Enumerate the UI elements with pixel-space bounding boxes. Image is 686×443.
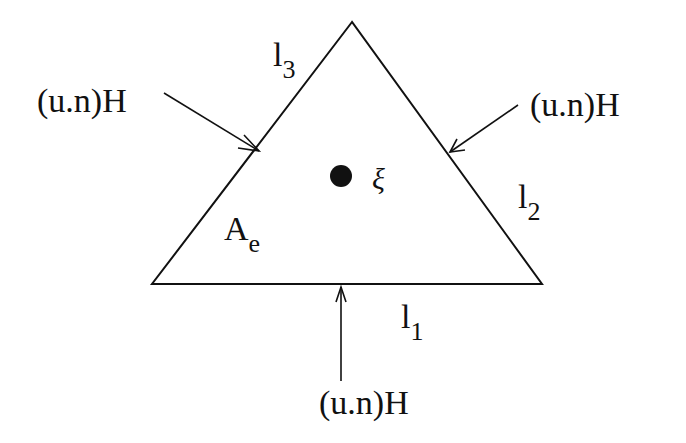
- edge-label-l1-sub: 1: [410, 317, 423, 346]
- source-point-dot: [330, 165, 352, 187]
- element-area-label: Ae: [224, 212, 260, 246]
- edge-label-l1: l1: [401, 300, 423, 334]
- triangle-element: [152, 22, 542, 284]
- flux-label-right: (u.n)H: [530, 88, 620, 122]
- edge-label-l2-sub: 2: [527, 197, 540, 226]
- source-point-label: ξ: [372, 164, 385, 194]
- flux-label-bottom: (u.n)H: [319, 386, 409, 420]
- element-area-sub: e: [249, 229, 261, 258]
- edge-label-l3: l3: [273, 38, 295, 72]
- edge-label-l2: l2: [518, 180, 540, 214]
- flux-arrow-bottom: [336, 287, 346, 381]
- flux-arrow-left: [164, 93, 259, 151]
- flux-label-left: (u.n)H: [37, 84, 127, 118]
- edge-label-l3-sub: 3: [282, 55, 295, 84]
- element-area-main: A: [224, 210, 249, 247]
- diagram-canvas: [0, 0, 686, 443]
- flux-arrow-right: [450, 105, 518, 152]
